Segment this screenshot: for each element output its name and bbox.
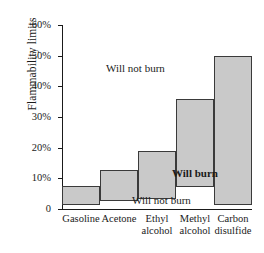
- flammability-limits-chart: Flammability limits 010%20%30%40%50%60% …: [0, 0, 264, 253]
- plot-area: 010%20%30%40%50%60% GasolineAcetoneEthyl…: [62, 25, 252, 209]
- bar-ethyl-alcohol: [138, 151, 176, 199]
- x-label-line: disulfide: [206, 225, 261, 237]
- y-tick-40%: 40%: [58, 86, 63, 87]
- annotation-will-not-burn-bottom: Will not burn: [132, 195, 191, 206]
- y-tick-label: 50%: [32, 50, 51, 61]
- y-tick-60%: 60%: [58, 25, 63, 26]
- y-tick-label: 20%: [32, 142, 51, 153]
- annotation-will-burn: Will burn: [172, 168, 218, 179]
- y-tick-label: 40%: [32, 81, 51, 92]
- y-tick-20%: 20%: [58, 148, 63, 149]
- bar-gasoline: [62, 186, 100, 204]
- y-tick-30%: 30%: [58, 117, 63, 118]
- x-label-carbon-disulfide: Carbondisulfide: [206, 213, 261, 236]
- y-tick-0: 0: [58, 209, 63, 210]
- y-tick-label: 0: [46, 204, 51, 215]
- y-tick-50%: 50%: [58, 56, 63, 57]
- y-tick-label: 10%: [32, 173, 51, 184]
- y-tick-label: 60%: [32, 20, 51, 31]
- bar-carbon-disulfide: [214, 56, 252, 205]
- x-label-line: Carbon: [206, 213, 261, 225]
- x-axis-line: [62, 209, 252, 210]
- y-tick-label: 30%: [32, 112, 51, 123]
- annotation-will-not-burn-top: Will not burn: [106, 63, 165, 74]
- y-tick-10%: 10%: [58, 178, 63, 179]
